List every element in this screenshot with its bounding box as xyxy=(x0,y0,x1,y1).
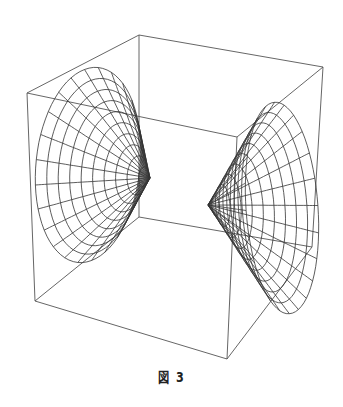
box-edge xyxy=(237,67,323,137)
box-edge xyxy=(35,301,227,359)
box-edge xyxy=(312,67,323,247)
ring-gridline xyxy=(245,102,318,313)
left-sheet xyxy=(35,67,150,262)
figure-caption: 図 3 xyxy=(34,366,308,386)
figure-plot xyxy=(0,0,343,407)
surface-sheets xyxy=(35,67,318,313)
ring-gridline xyxy=(70,101,144,238)
box-edge xyxy=(139,35,323,67)
box-edge xyxy=(27,93,35,301)
ring-gridline xyxy=(58,90,142,246)
ring-gridline xyxy=(47,79,142,255)
box-edge xyxy=(35,217,139,301)
ring-gridline xyxy=(238,123,297,292)
ring-gridline xyxy=(104,134,146,212)
